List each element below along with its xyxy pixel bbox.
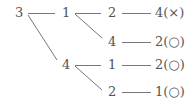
node-level2-d: 2 bbox=[108, 85, 116, 99]
edge-3-4 bbox=[28, 15, 57, 60]
edge-4-2 bbox=[75, 66, 102, 90]
leaf-c-circle: 2(○) bbox=[155, 58, 185, 72]
leaf-d-circle: 1(○) bbox=[155, 85, 185, 99]
node-level2-a: 2 bbox=[108, 6, 116, 20]
tree-diagram: 3 1 4 2 4 1 2 4(×) 2(○) 2(○) 1(○) bbox=[0, 0, 196, 107]
leaf-a-cross: 4(×) bbox=[155, 6, 184, 20]
node-level2-c: 1 bbox=[108, 58, 116, 72]
node-level1-b: 4 bbox=[62, 58, 70, 72]
node-level2-b: 4 bbox=[108, 35, 116, 49]
edge-1-4 bbox=[75, 14, 102, 38]
leaf-b-circle: 2(○) bbox=[155, 35, 185, 49]
node-level1-a: 1 bbox=[62, 6, 70, 20]
node-root: 3 bbox=[15, 6, 23, 20]
